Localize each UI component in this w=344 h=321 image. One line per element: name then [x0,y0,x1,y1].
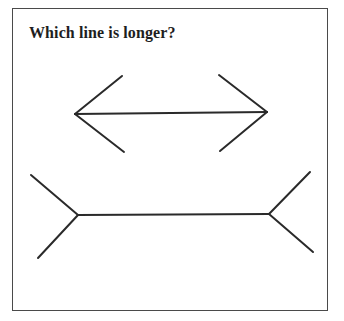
clipped-caption [40,313,330,321]
top-arrow-left-fin-0 [75,76,122,114]
bottom-arrow-right-fin-1 [269,214,313,252]
top-arrow-shaft [75,112,267,114]
bottom-arrow-left-fin-0 [31,175,78,215]
bottom-arrow-line-outward-fins [31,172,313,258]
bottom-arrow-right-fin-0 [269,172,310,214]
top-arrow-right-fin-0 [219,75,267,112]
top-arrow-left-fin-1 [75,114,124,152]
muller-lyer-figure [0,0,344,321]
bottom-arrow-shaft [78,214,269,215]
bottom-arrow-left-fin-1 [38,215,78,258]
top-arrow-right-fin-1 [220,112,267,151]
top-arrow-line-inward-fins [75,75,267,152]
